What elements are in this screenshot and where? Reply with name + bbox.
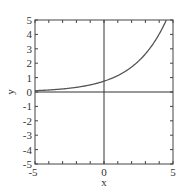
y-tick-labels: -5-4-3-2-1012345 (23, 14, 33, 170)
y-tick-label: 5 (27, 14, 33, 26)
data-curve (35, 20, 166, 91)
x-axis-label: x (101, 176, 107, 188)
x-tick-label: -5 (28, 166, 38, 178)
y-tick-label: -4 (23, 144, 33, 156)
y-tick-label: 0 (27, 86, 33, 98)
origin-axes (35, 20, 173, 164)
x-tick-label: 5 (170, 166, 176, 178)
y-tick-label: 4 (27, 28, 33, 40)
exponential-chart: -5-4-3-2-1012345 -505 x y (0, 0, 183, 193)
y-tick-label: -3 (23, 129, 33, 141)
y-tick-label: 2 (27, 57, 33, 69)
y-tick-label: 1 (27, 72, 33, 84)
y-tick-label: 3 (27, 43, 33, 55)
y-tick-label: -1 (23, 100, 32, 112)
y-tick-label: -2 (23, 115, 32, 127)
y-axis-label: y (4, 89, 16, 95)
